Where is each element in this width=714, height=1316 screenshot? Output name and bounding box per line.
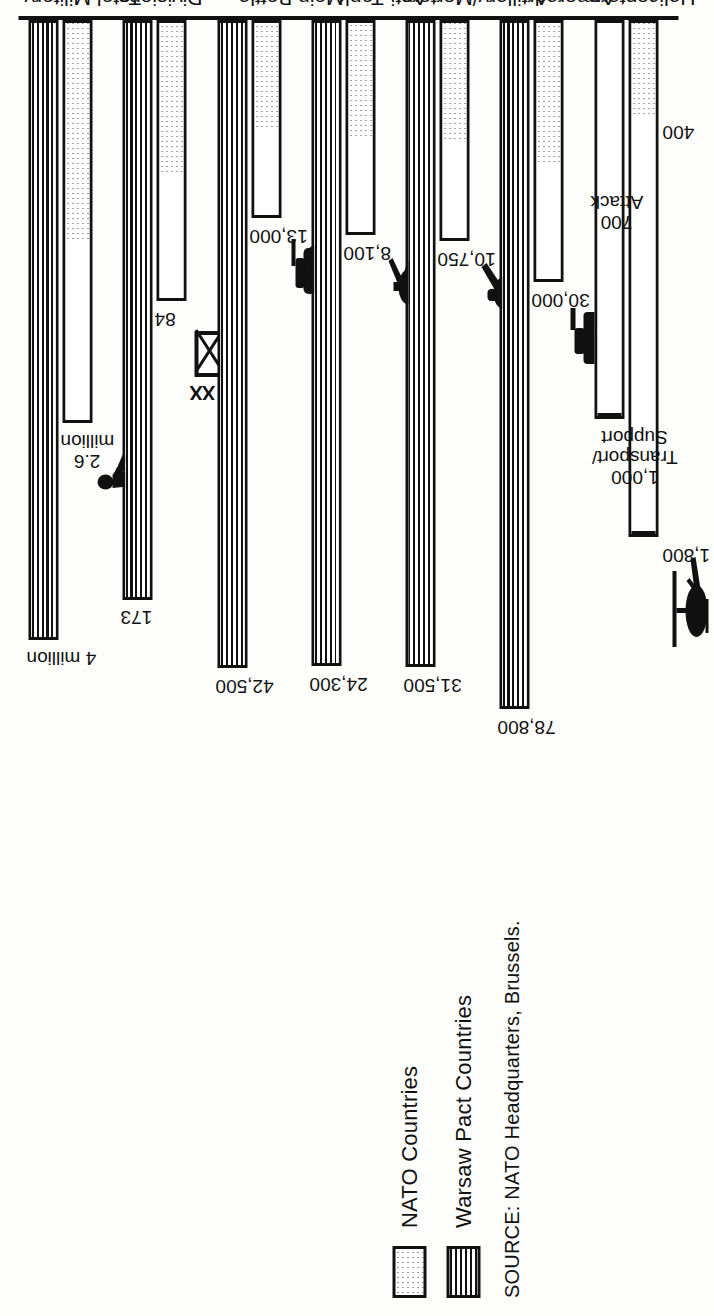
bar-nato	[251, 20, 281, 218]
bar-fill	[125, 23, 149, 597]
bar-fill	[220, 23, 244, 665]
value-label-wp: 173	[120, 608, 152, 628]
plot-area: Total MilitaryManpower4 million2.6 milli…	[18, 16, 678, 861]
value-label-wp: 78,800	[497, 718, 555, 738]
legend-swatch-warsaw-pact-icon	[446, 1246, 480, 1298]
bar-fill	[536, 23, 560, 164]
bar-fill	[314, 23, 338, 663]
value-label-wp: 31,500	[403, 675, 461, 695]
value-label-wp: 42,500	[215, 676, 273, 696]
legend-item-warsaw-pact: Warsaw Pact Countries	[446, 868, 480, 1298]
bar-fill	[159, 23, 183, 174]
bar-fill-blank	[348, 138, 372, 232]
bar-group: Artillery/Mortars(100 mm. andaboveinclud…	[395, 20, 489, 865]
bar-fill-blank	[159, 174, 183, 298]
bar-fill-blank	[254, 129, 278, 216]
legend-label-warsaw-pact: Warsaw Pact Countries	[450, 995, 476, 1228]
bar-fill-blank	[536, 164, 560, 279]
legend-item-nato: NATO Countries	[392, 868, 426, 1298]
bar-group: ArmoredPersonnelCarriers, InfantryFighti…	[489, 20, 583, 865]
bar-group: Total MilitaryManpower4 million2.6 milli…	[18, 20, 112, 865]
bar-wp	[122, 20, 152, 600]
category-label: Divisions	[118, 0, 202, 10]
pictogram-icon	[662, 555, 714, 651]
bar-nato	[439, 20, 469, 241]
bar-wp	[311, 20, 341, 666]
legend-label-nato: NATO Countries	[396, 1066, 422, 1228]
bar-group: Main BattleTanks(Main armament90 mm. and…	[207, 20, 301, 865]
value-label-nato: 84	[154, 309, 175, 329]
bar-fill	[442, 23, 466, 141]
bar-group: Divisions17384XX	[112, 20, 206, 865]
value-label-wp: 4 million	[26, 648, 96, 668]
category-label: Helicopters	[590, 0, 695, 10]
bar-nato	[156, 20, 186, 301]
bar-fill	[348, 23, 372, 138]
nato-transport-support-label: 1,800	[662, 545, 710, 565]
wp-attack-label: 700 Attack	[590, 193, 643, 233]
bar-fill-blank	[65, 241, 89, 420]
wp-transport-support-label: 1,000 Transport/ Support	[590, 428, 678, 488]
bar-wp	[405, 20, 435, 667]
bar-fill	[31, 23, 55, 637]
bar-group: Anti-TankGuided WeaponLaunchers(Crew ser…	[301, 20, 395, 865]
value-label-wp: 24,300	[309, 674, 367, 694]
bar-group: Helicopters1,000 Transport/ Support700 A…	[584, 20, 678, 865]
bar-wp	[217, 20, 247, 668]
bar-fill	[502, 23, 526, 707]
legend: NATO Countries Warsaw Pact Countries	[392, 868, 500, 1298]
nato-attack-label: 400	[662, 122, 694, 142]
bar-wp	[499, 20, 529, 710]
legend-swatch-nato-icon	[392, 1246, 426, 1298]
bar-fill	[65, 23, 89, 241]
bar-nato	[533, 20, 563, 283]
bar-fill-blank	[442, 141, 466, 238]
bar-fill	[254, 23, 278, 129]
bar-nato	[345, 20, 375, 235]
bar-segment-attack	[631, 23, 655, 116]
bar-wp	[28, 20, 58, 640]
bar-nato	[62, 20, 92, 423]
bar-segment-attack	[597, 23, 621, 185]
source-note: SOURCE: NATO Headquarters, Brussels.	[500, 920, 523, 1298]
bar-fill	[408, 23, 432, 664]
